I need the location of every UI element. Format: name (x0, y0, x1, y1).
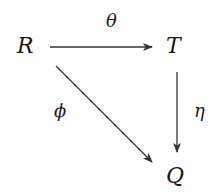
node-q: Q (166, 165, 184, 187)
label-phi: ϕ (54, 102, 66, 120)
node-r: R (17, 35, 34, 57)
label-eta: η (194, 102, 205, 120)
label-theta: θ (106, 12, 117, 30)
commutative-diagram: R T Q θ η ϕ (0, 0, 218, 196)
node-t: T (166, 35, 181, 57)
arrow-phi (56, 66, 152, 162)
